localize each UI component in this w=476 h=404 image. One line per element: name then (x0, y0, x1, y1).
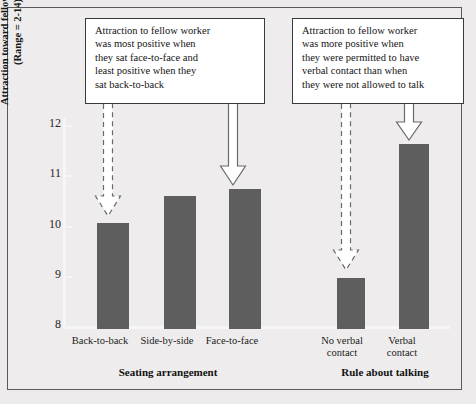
y-tick-8: 8 (66, 326, 72, 328)
callout-seating-arrangement: Attraction to fellow worker was most pos… (85, 18, 265, 104)
bar-face-to-face (229, 189, 261, 329)
bar-no-verbal-contact (337, 278, 365, 329)
arrow-dashed-to-no-verbal-contact (332, 104, 360, 276)
arrow-solid-to-verbal-contact (395, 104, 423, 144)
bar-back-to-back (97, 223, 129, 329)
y-tick-11: 11 (66, 175, 72, 177)
arrow-solid-to-face-to-face (219, 104, 247, 190)
y-tick-label-8: 8 (55, 317, 61, 332)
figure-container: Attraction toward fellow worker (Range =… (0, 0, 476, 404)
y-tick-10: 10 (66, 226, 72, 228)
y-axis-title-line-1: Attraction toward fellow worker (0, 0, 11, 132)
category-label-no-verbal-contact: No verbal contact (311, 335, 373, 359)
y-tick-9: 9 (66, 276, 72, 278)
y-axis-title-line-2: (Range = 2-14) (11, 0, 24, 132)
arrow-dashed-to-back-to-back (94, 104, 122, 222)
bar-side-by-side (164, 196, 196, 329)
callout-rule-about-talking: Attraction to fellow worker was more pos… (292, 18, 464, 104)
category-label-face-to-face: Face-to-face (190, 335, 274, 347)
y-axis-title: Attraction toward fellow worker (Range =… (0, 0, 24, 132)
y-tick-12: 12 (66, 125, 72, 127)
y-tick-label-9: 9 (55, 267, 61, 282)
y-tick-label-12: 12 (49, 116, 61, 131)
bar-verbal-contact (399, 144, 429, 329)
y-tick-label-10: 10 (49, 217, 61, 232)
group-title-seating: Seating arrangement (98, 366, 238, 378)
y-axis-line (63, 118, 66, 329)
y-tick-label-11: 11 (49, 166, 61, 181)
category-label-verbal-contact: Verbal contact (377, 335, 427, 359)
group-title-talking: Rule about talking (320, 366, 450, 378)
